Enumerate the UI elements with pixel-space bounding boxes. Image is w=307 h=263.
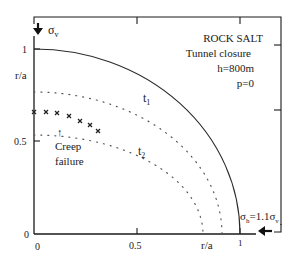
x-axis-label: r/a <box>201 239 213 251</box>
cross-marker <box>96 129 100 133</box>
param-pressure: p=0 <box>237 77 255 89</box>
tunnel-closure-diagram: 1 0.5 0 r/a 0 0.5 1 r/a t1 t2 <box>0 0 307 263</box>
horizontal-stress-arrow-icon <box>258 226 272 236</box>
t2-label: t2 <box>138 144 145 160</box>
param-depth: h=800m <box>217 62 254 74</box>
y-tick-1: 1 <box>22 44 27 55</box>
cross-marker <box>78 119 82 123</box>
y-axis-label: r/a <box>15 69 27 81</box>
creep-failure-points <box>32 110 100 133</box>
sigma-h-label: σh=1.1σv <box>240 210 279 225</box>
x-tick-0: 0 <box>35 241 40 252</box>
y-tick-0: 0 <box>24 229 29 240</box>
x-tick-0-5: 0.5 <box>129 240 142 251</box>
cross-marker <box>44 110 48 114</box>
cross-marker <box>88 123 92 127</box>
cross-marker <box>67 114 71 118</box>
x-tick-1: 1 <box>238 238 243 248</box>
cross-marker <box>55 111 59 115</box>
y-tick-0-5: 0.5 <box>14 136 27 147</box>
t1-label: t1 <box>143 91 150 107</box>
creep-arrow-icon: ↑ <box>57 126 63 138</box>
sigma-v-label: σv <box>48 23 58 39</box>
vertical-stress-arrow-icon <box>33 23 43 35</box>
creep-label-line2: failure <box>55 155 84 167</box>
title: ROCK SALT <box>203 32 263 44</box>
creep-label-line1: Creep <box>55 140 82 152</box>
subtitle: Tunnel closure <box>186 47 251 59</box>
